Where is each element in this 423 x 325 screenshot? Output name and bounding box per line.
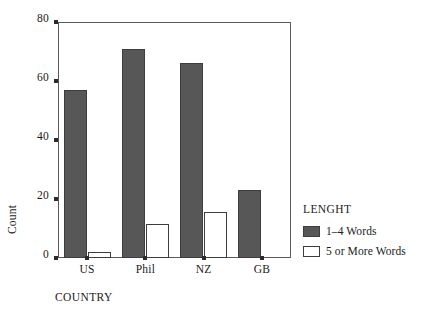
bar-phil-series-2 bbox=[146, 224, 169, 258]
y-tick-label: 80 bbox=[37, 13, 49, 25]
legend-item-label: 1–4 Words bbox=[326, 225, 377, 237]
legend-swatch-icon bbox=[303, 226, 320, 237]
legend-swatch-icon bbox=[303, 246, 320, 257]
x-tick-label-phil: Phil bbox=[115, 263, 175, 276]
x-tick-mark bbox=[143, 256, 147, 260]
x-tick-mark bbox=[260, 256, 264, 260]
y-tick-mark bbox=[54, 20, 58, 24]
y-tick-label: 20 bbox=[37, 190, 49, 202]
legend-item-1-4-words[interactable]: 1–4 Words bbox=[303, 225, 421, 237]
bar-phil-series-1 bbox=[122, 49, 145, 258]
y-tick-mark bbox=[54, 138, 58, 142]
y-tick-mark bbox=[54, 79, 58, 83]
y-axis: 0 20 40 60 80 bbox=[0, 0, 58, 325]
legend-item-5-or-more-words[interactable]: 5 or More Words bbox=[303, 245, 421, 257]
bar-nz-series-2 bbox=[204, 212, 227, 258]
x-tick-label-nz: NZ bbox=[174, 263, 234, 276]
bar-nz-series-1 bbox=[180, 63, 203, 258]
y-tick-label: 0 bbox=[43, 249, 49, 261]
y-tick-label: 60 bbox=[37, 72, 49, 84]
y-axis-title: Count bbox=[6, 174, 18, 234]
y-tick-label: 40 bbox=[37, 131, 49, 143]
y-tick-mark bbox=[54, 256, 58, 260]
legend: LENGHT 1–4 Words 5 or More Words bbox=[303, 203, 421, 265]
x-tick-mark bbox=[85, 256, 89, 260]
legend-title: LENGHT bbox=[303, 203, 421, 216]
bar-gb-series-1 bbox=[238, 190, 261, 258]
x-tick-label-us: US bbox=[57, 263, 117, 276]
x-axis-title: COUNTRY bbox=[55, 291, 113, 304]
bar-us-series-1 bbox=[64, 90, 87, 258]
bar-chart-figure: 0 20 40 60 80 Count USPhilNZGB COUNTRY L… bbox=[0, 0, 423, 325]
x-tick-label-gb: GB bbox=[232, 263, 292, 276]
x-tick-mark bbox=[202, 256, 206, 260]
bar-us-series-2 bbox=[88, 252, 111, 258]
legend-item-label: 5 or More Words bbox=[326, 245, 406, 257]
y-tick-mark bbox=[54, 197, 58, 201]
